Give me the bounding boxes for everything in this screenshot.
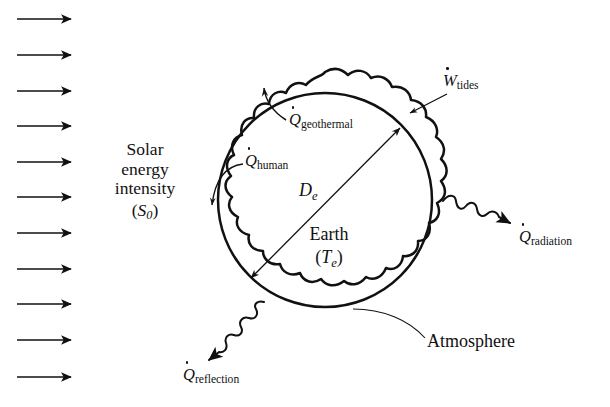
temp-var: T bbox=[321, 247, 331, 267]
geothermal-label: Qgeothermal bbox=[289, 111, 353, 131]
solar-symbol: (S0) bbox=[96, 201, 194, 223]
human-label: Qhuman bbox=[245, 152, 288, 172]
tides-var-text: W bbox=[443, 71, 457, 90]
tides-sub: tides bbox=[457, 79, 479, 91]
human-var: Q bbox=[245, 152, 257, 170]
geothermal-var-text: Q bbox=[289, 110, 301, 129]
overdot-icon bbox=[186, 361, 189, 364]
radiation-var: Q bbox=[519, 228, 531, 246]
solar-paren-close: ) bbox=[152, 200, 158, 220]
reflection-squiggle-arrow bbox=[209, 301, 264, 360]
earth-name-label: Earth bbox=[291, 224, 367, 244]
earth-temperature-label: (Te) bbox=[291, 247, 367, 270]
radiation-squiggle-arrow bbox=[443, 196, 510, 223]
diameter-sub: e bbox=[312, 189, 318, 203]
radiation-label: Qradiation bbox=[519, 228, 572, 248]
radiation-var-text: Q bbox=[519, 227, 531, 246]
human-sub: human bbox=[257, 159, 288, 171]
reflection-sub: reflection bbox=[195, 373, 239, 385]
solar-label-line1: Solar bbox=[96, 140, 194, 160]
reflection-label: Qreflection bbox=[183, 366, 239, 386]
human-var-text: Q bbox=[245, 151, 257, 170]
earth-diameter-label: De bbox=[299, 180, 318, 203]
reflection-var: Q bbox=[183, 366, 195, 384]
earth-energy-balance-figure: Solar energy intensity (S0) Qgeothermal … bbox=[0, 0, 610, 407]
solar-label-line2: energy bbox=[96, 160, 194, 180]
diagram-canvas bbox=[0, 0, 610, 407]
tides-arrow bbox=[410, 94, 447, 113]
human-arrow bbox=[212, 164, 243, 205]
temp-paren-close: ) bbox=[337, 247, 343, 267]
solar-energy-intensity-label: Solar energy intensity (S0) bbox=[96, 140, 194, 223]
atmosphere-label: Atmosphere bbox=[427, 331, 515, 351]
overdot-icon bbox=[248, 147, 251, 150]
diameter-var: D bbox=[299, 180, 312, 200]
atmosphere-leader-line bbox=[353, 309, 425, 338]
tides-label: Wtides bbox=[443, 72, 479, 92]
overdot-icon bbox=[522, 223, 525, 226]
geothermal-sub: geothermal bbox=[301, 118, 353, 130]
solar-label-line3: intensity bbox=[96, 179, 194, 199]
solar-ray-arrows bbox=[17, 19, 71, 377]
overdot-icon bbox=[292, 106, 295, 109]
reflection-var-text: Q bbox=[183, 365, 195, 384]
tides-var: W bbox=[443, 72, 457, 90]
solar-symbol-var: S bbox=[138, 200, 147, 220]
overdot-icon bbox=[446, 67, 449, 70]
radiation-sub: radiation bbox=[531, 235, 572, 247]
geothermal-var: Q bbox=[289, 111, 301, 129]
